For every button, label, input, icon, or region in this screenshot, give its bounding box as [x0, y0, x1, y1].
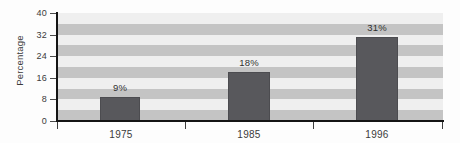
y-axis-tick: [50, 99, 56, 100]
x-axis-tick-label: 1996: [347, 129, 407, 140]
y-axis-line: [56, 12, 58, 122]
y-axis-tick: [50, 78, 56, 79]
x-axis-line: [56, 120, 444, 122]
y-axis-tick-label: 32: [27, 30, 47, 40]
y-axis-tick-label: 0: [27, 116, 47, 126]
bar-chart-figure: 40 32 24 16 8 0 Percentage 1975 1985 199…: [0, 0, 460, 143]
y-axis-tick-label: 40: [27, 8, 47, 18]
y-axis-tick-label: 8: [27, 94, 47, 104]
y-axis-title: Percentage: [14, 21, 25, 101]
bar-value-label-1996: 31%: [347, 22, 407, 33]
bar-value-label-1975: 9%: [90, 82, 150, 93]
bar-1985: [228, 72, 270, 121]
y-axis-tick-label: 24: [27, 51, 47, 61]
y-axis-tick: [50, 56, 56, 57]
x-axis-tick: [57, 122, 58, 129]
y-axis-tick-label: 16: [27, 73, 47, 83]
bar-value-label-1985: 18%: [219, 57, 279, 68]
x-axis-tick: [442, 122, 443, 129]
bar-1975: [100, 97, 140, 121]
x-axis-tick: [185, 122, 186, 129]
x-axis-tick: [313, 122, 314, 129]
y-axis-tick: [50, 13, 56, 14]
y-axis-tick: [50, 35, 56, 36]
x-axis-tick-label: 1985: [219, 129, 279, 140]
bar-1996: [356, 37, 398, 121]
x-axis-tick-label: 1975: [91, 129, 151, 140]
y-axis-tick: [50, 121, 56, 122]
